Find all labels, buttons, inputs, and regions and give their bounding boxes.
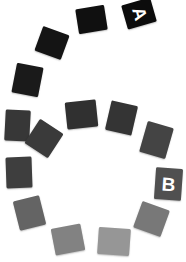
tile-spiral-figure: AB [0,0,186,262]
tile-outer-arc-3 [11,63,43,98]
tile-outer-arc-5 [5,157,32,189]
tile-inner-arc-2 [24,119,63,159]
tile-inner-arc-0 [65,99,99,129]
tile-label-b: B [161,174,176,194]
tile-outer-arc-11 [139,121,174,159]
tile-a: A [121,0,157,30]
tile-outer-arc-9 [133,201,170,237]
tile-outer-arc-2 [34,26,69,60]
tile-outer-arc-1 [75,5,108,34]
tile-label-a: A [129,5,150,22]
tile-b: B [154,167,183,201]
tile-inner-arc-1 [105,100,138,135]
tile-outer-arc-8 [97,227,131,256]
tile-outer-arc-7 [51,223,86,255]
tile-outer-arc-6 [13,195,46,231]
